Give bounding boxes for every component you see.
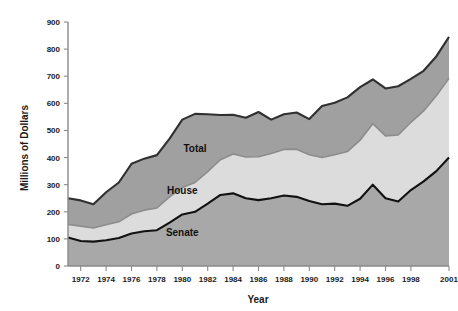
x-axis-title: Year — [247, 294, 268, 305]
series-label-senate: Senate — [166, 227, 199, 238]
chart-container: 0100200300400500600700800900 19721974197… — [0, 0, 458, 311]
x-tick-label: 1976 — [123, 275, 141, 284]
y-axis-title: Millions of Dollars — [19, 105, 30, 192]
y-tick-label: 500 — [47, 126, 61, 135]
x-tick-label: 1984 — [224, 275, 242, 284]
x-tick-label: 1980 — [173, 275, 191, 284]
y-tick-label: 0 — [56, 262, 61, 271]
series-label-total: Total — [183, 143, 206, 154]
x-tick-label: 1988 — [275, 275, 293, 284]
y-tick-label: 900 — [47, 18, 61, 27]
x-tick-label: 1972 — [72, 275, 90, 284]
y-tick-label: 300 — [47, 181, 61, 190]
x-tick-label: 1986 — [250, 275, 268, 284]
y-tick-label: 800 — [47, 45, 61, 54]
y-tick-label: 100 — [47, 235, 61, 244]
stacked-area-chart: 0100200300400500600700800900 19721974197… — [0, 0, 458, 311]
x-tick-label: 1978 — [148, 275, 166, 284]
series-label-house: House — [167, 185, 198, 196]
x-tick-label: 2001 — [440, 275, 458, 284]
x-tick-label: 1982 — [199, 275, 217, 284]
x-tick-label: 1996 — [377, 275, 395, 284]
x-tick-label: 1994 — [351, 275, 369, 284]
y-tick-label: 600 — [47, 99, 61, 108]
y-tick-label: 700 — [47, 72, 61, 81]
x-tick-label: 1998 — [402, 275, 420, 284]
x-tick-label: 1992 — [326, 275, 344, 284]
y-tick-label: 200 — [47, 208, 61, 217]
x-tick-label: 1974 — [97, 275, 115, 284]
x-tick-label: 1990 — [300, 275, 318, 284]
y-tick-label: 400 — [47, 154, 61, 163]
